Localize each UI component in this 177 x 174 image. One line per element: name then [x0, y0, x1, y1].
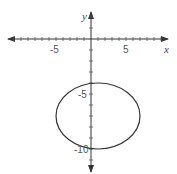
ellipse-graph: y x -5 5 -5 -10 — [0, 0, 177, 174]
x-axis-label: x — [163, 43, 169, 55]
y-axis-label: y — [81, 10, 87, 22]
x-tick-label-pos5: 5 — [123, 44, 129, 55]
y-tick-label-neg10: -10 — [74, 144, 89, 155]
x-tick-label-neg5: -5 — [50, 44, 59, 55]
y-tick-label-neg5: -5 — [78, 89, 87, 100]
ellipse-curve — [56, 83, 140, 149]
